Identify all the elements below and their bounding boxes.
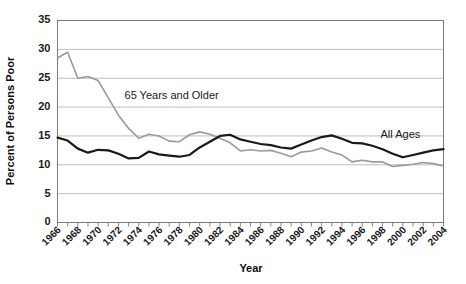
x-tick-label: 1992 [304,224,328,248]
chart-svg: 05101520253035 1966196819701972197419761… [0,0,466,284]
y-tick-label: 5 [44,187,50,199]
data-series [58,52,444,166]
x-tick-label: 1996 [344,224,368,248]
poverty-rate-line-chart: 05101520253035 1966196819701972197419761… [0,0,466,284]
x-tick-label: 1978 [161,224,185,248]
x-tick-label: 1974 [121,224,145,248]
x-tick-label: 1968 [60,224,84,248]
x-axis-title: Year [239,262,263,274]
y-axis: 05101520253035 [38,13,50,227]
grid-lines [58,21,444,194]
y-tick-label: 25 [38,71,50,83]
plot-area-border [58,21,444,223]
y-tick-label: 20 [38,100,50,112]
series-annotations: 65 Years and OlderAll Ages [125,89,421,140]
y-tick-label: 30 [38,42,50,54]
x-tick-label: 1994 [324,224,348,248]
x-tick-label: 1982 [202,224,226,248]
x-tick-label: 1988 [263,224,287,248]
x-tick-label: 1972 [100,224,124,248]
x-tick-label: 1976 [141,224,165,248]
series-line-65-years-and-older [58,52,444,166]
x-tick-label: 1966 [39,224,63,248]
x-tick-label: 1984 [222,224,246,248]
plot-border [58,21,444,223]
y-tick-label: 0 [44,215,50,227]
x-tick-label: 2004 [425,224,449,248]
x-axis: 1966196819701972197419761978198019821984… [39,223,449,248]
x-tick-label: 1980 [182,224,206,248]
x-tick-label: 1990 [283,224,307,248]
x-tick-label: 1986 [243,224,267,248]
y-axis-title: Percent of Persons Poor [4,56,16,185]
series-label-65-years-and-older: 65 Years and Older [125,89,220,101]
x-tick-label: 2000 [385,224,409,248]
y-tick-label: 35 [38,13,50,25]
series-label-all-ages: All Ages [381,128,421,140]
x-tick-label: 1970 [80,224,104,248]
x-tick-label: 1998 [364,224,388,248]
x-tick-label: 2002 [405,224,429,248]
y-tick-label: 10 [38,158,50,170]
y-tick-label: 15 [38,129,50,141]
